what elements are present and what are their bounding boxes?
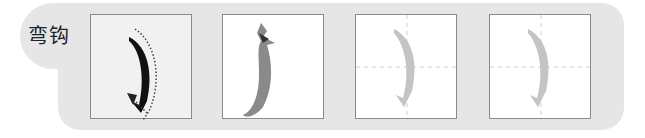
tracing-box-1: [355, 14, 457, 119]
gourd-illustration-icon: [223, 15, 325, 120]
stroke-demo-box: [90, 14, 192, 119]
bent-hook-stroke-icon: [91, 15, 193, 120]
trace-stroke-icon: [490, 15, 592, 120]
arrowhead-icon: [127, 93, 137, 105]
stroke-name-label: 弯钩: [28, 20, 70, 49]
trace-stroke-icon: [356, 15, 458, 120]
illustration-box: [222, 14, 324, 119]
tracing-box-2: [489, 14, 591, 119]
